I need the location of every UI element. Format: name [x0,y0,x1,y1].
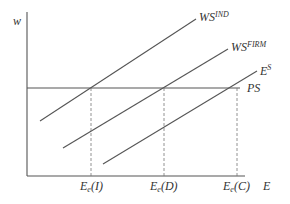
es-curve [103,71,257,164]
ws-ind-label: WSIND [199,10,229,24]
y-axis-label: w [13,14,21,28]
wage-setting-diagram: w E PS WSIND WSFIRM ES Ee(I) Ee(D) Ee(C) [0,0,290,204]
equilibrium-d-label: Ee(D) [149,179,178,194]
ws-ind-curve [40,19,196,121]
ws-firm-label: WSFIRM [231,40,267,54]
es-label: ES [259,63,271,78]
equilibrium-c-label: Ee(C) [222,179,250,194]
ws-firm-curve [63,49,228,148]
ps-label: PS [246,81,260,95]
x-axis-label: E [262,179,271,193]
equilibrium-i-label: Ee(I) [79,179,103,194]
